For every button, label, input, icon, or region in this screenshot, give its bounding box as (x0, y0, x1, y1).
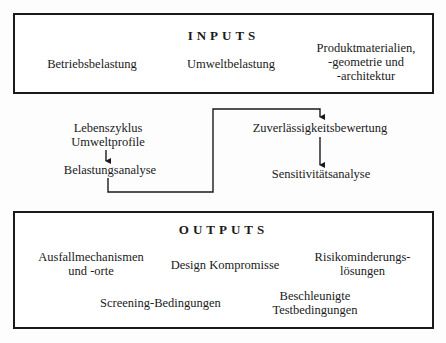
output-design-tradeoffs: Design Kompromisse (170, 258, 280, 272)
output-risk-mitigation: Risikominderungs- lösungen (310, 250, 415, 278)
output-accelerated-test-conditions: Beschleunigte Testbedingungen (265, 289, 365, 317)
outputs-title: OUTPUTS (15, 222, 432, 238)
output-screening-conditions: Screening-Bedingungen (100, 296, 220, 310)
arrow-stress-to-reliability (108, 109, 320, 192)
output-failure-mechanisms: Ausfallmechanismen und -orte (30, 250, 152, 278)
